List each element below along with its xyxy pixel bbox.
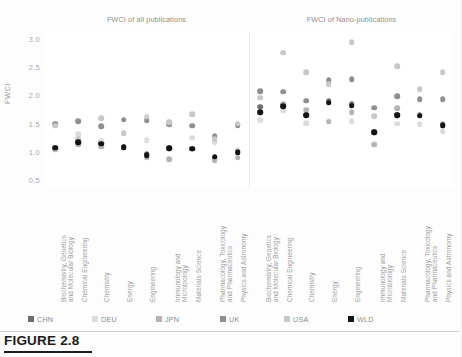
x-axis-label: Materials Science xyxy=(195,197,202,302)
panel-title-nano: FWCI of Nano-publications xyxy=(249,15,454,24)
legend-item-chn[interactable]: CHN xyxy=(28,315,92,324)
x-axis-label: Materials Science xyxy=(400,197,407,302)
legend-label: CHN xyxy=(37,315,53,324)
data-point xyxy=(212,154,218,160)
legend-swatch-icon xyxy=(220,316,226,322)
x-axis-label: Engineering xyxy=(149,197,156,302)
legend-label: USA xyxy=(293,315,308,324)
panel-title-all: FWCI of all publications xyxy=(44,15,249,24)
x-axis-label: Energy xyxy=(331,197,338,302)
y-axis-tick: 0.5 xyxy=(0,176,40,185)
data-point xyxy=(280,50,286,56)
data-point xyxy=(371,105,377,111)
data-point xyxy=(166,157,172,163)
data-point xyxy=(440,122,446,128)
data-point xyxy=(144,114,150,120)
data-point xyxy=(98,116,104,122)
data-point xyxy=(394,64,400,70)
data-point xyxy=(121,117,127,123)
data-point xyxy=(121,130,127,136)
y-axis-tick: 2.5 xyxy=(0,63,40,72)
legend-swatch-icon xyxy=(284,316,290,322)
data-point xyxy=(326,100,332,106)
data-point xyxy=(440,129,446,135)
data-point xyxy=(144,152,150,158)
x-axis-label: Physics and Astronomy xyxy=(445,197,452,302)
legend-item-usa[interactable]: USA xyxy=(284,315,348,324)
plot-area xyxy=(44,31,454,188)
data-point xyxy=(394,106,400,112)
data-point xyxy=(98,141,104,147)
data-point xyxy=(280,103,286,109)
x-axis-label: Chemical Engineering xyxy=(286,197,293,302)
data-point xyxy=(371,129,377,135)
y-axis: 0.51.01.52.02.53.0 xyxy=(0,0,42,357)
data-point xyxy=(394,93,400,99)
x-axis-label: Chemistry xyxy=(308,197,315,302)
data-point xyxy=(189,135,195,141)
data-point xyxy=(258,117,264,123)
x-axis-label: Energy xyxy=(126,197,133,302)
data-point xyxy=(189,146,195,152)
y-axis-tick: 1.5 xyxy=(0,120,40,129)
data-point xyxy=(417,87,423,93)
data-point xyxy=(235,121,241,127)
data-point xyxy=(303,120,309,126)
data-point xyxy=(371,142,377,148)
data-point xyxy=(349,110,355,116)
data-point xyxy=(417,113,423,119)
y-axis-tick: 3.0 xyxy=(0,35,40,44)
legend-swatch-icon xyxy=(156,316,162,322)
x-axis-label: Biochemistry, Genetics and Molecular Bio… xyxy=(265,197,279,302)
data-point xyxy=(235,149,241,155)
data-point xyxy=(440,97,446,103)
data-point xyxy=(121,144,127,150)
data-point xyxy=(258,95,264,101)
legend-label: JPN xyxy=(165,315,179,324)
data-point xyxy=(75,139,81,145)
figure-root: 0.51.01.52.02.53.0 FWCI FWCI of all publ… xyxy=(0,0,462,357)
data-point xyxy=(349,118,355,124)
data-points-layer xyxy=(44,31,454,188)
x-axis-label: Chemical Engineering xyxy=(81,197,88,302)
data-point xyxy=(189,111,195,117)
x-axis-label: Biochemistry, Genetics and Molecular Bio… xyxy=(60,197,74,302)
legend-item-jpn[interactable]: JPN xyxy=(156,315,220,324)
legend-item-wld[interactable]: WLD xyxy=(348,315,412,324)
data-point xyxy=(417,121,423,127)
y-axis-tick: 1.0 xyxy=(0,148,40,157)
data-point xyxy=(75,118,81,124)
data-point xyxy=(53,145,59,151)
data-point xyxy=(326,81,332,87)
data-point xyxy=(98,124,104,130)
x-axis-label: Physics and Astronomy xyxy=(240,197,247,302)
data-point xyxy=(394,112,400,118)
caption-underline xyxy=(4,351,92,353)
x-axis-label: Pharmacology, Toxicology and Pharmaceuti… xyxy=(219,197,233,302)
data-point xyxy=(258,88,264,94)
legend-swatch-icon xyxy=(348,316,354,322)
data-point xyxy=(166,120,172,126)
data-point xyxy=(394,121,400,127)
data-point xyxy=(166,145,172,151)
data-point xyxy=(303,98,309,104)
data-point xyxy=(144,138,150,144)
data-point xyxy=(417,97,423,103)
legend: CHNDEUJPNUKUSAWLD xyxy=(28,312,412,326)
data-point xyxy=(189,123,195,129)
data-point xyxy=(349,103,355,109)
x-axis-label: Chemistry xyxy=(103,197,110,302)
legend-swatch-icon xyxy=(92,316,98,322)
legend-item-deu[interactable]: DEU xyxy=(92,315,156,324)
x-axis-label: Immunology and Microbiology xyxy=(174,197,188,302)
data-point xyxy=(371,113,377,119)
data-point xyxy=(235,155,241,161)
data-point xyxy=(258,110,264,116)
data-point xyxy=(326,119,332,125)
x-axis-label: Engineering xyxy=(354,197,361,302)
data-point xyxy=(212,136,218,142)
legend-item-uk[interactable]: UK xyxy=(220,315,284,324)
data-point xyxy=(440,70,446,76)
figure-caption: FIGURE 2.8 xyxy=(4,333,80,348)
x-axis-label: Pharmacology, Toxicology and Pharmaceuti… xyxy=(424,197,438,302)
